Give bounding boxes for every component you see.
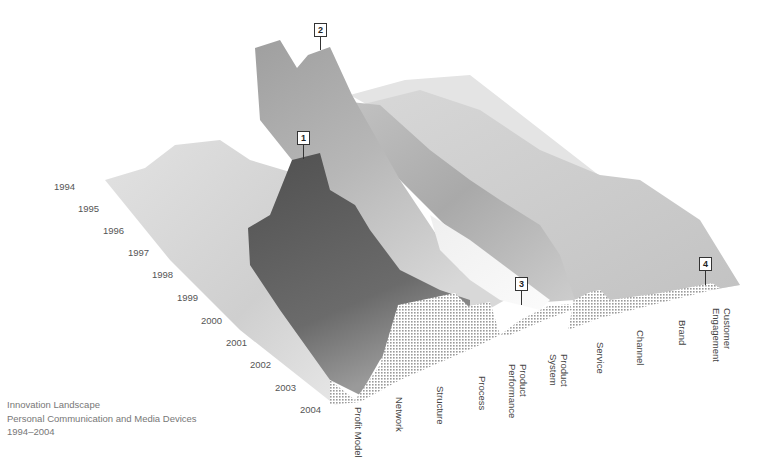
year-label-2003: 2003 <box>275 382 296 393</box>
category-label-customer-engagement: CustomerEngagement <box>711 308 733 362</box>
category-label-profit-model: Profit Model <box>353 407 364 458</box>
year-label-2004: 2004 <box>300 404 321 415</box>
year-label-1995: 1995 <box>78 203 99 214</box>
category-label-service: Service <box>595 342 606 374</box>
year-label-1998: 1998 <box>152 269 173 280</box>
callout-marker-2: 2 <box>314 23 327 37</box>
category-label-structure: Structure <box>435 386 446 425</box>
category-label-channel: Channel <box>635 330 646 365</box>
category-label-product-performance: ProductPerformance <box>507 364 529 418</box>
caption-title: Innovation Landscape <box>7 398 197 412</box>
year-label-2002: 2002 <box>250 359 271 370</box>
callout-line-4 <box>705 271 706 285</box>
caption-range: 1994–2004 <box>7 425 197 439</box>
callout-line-2 <box>320 37 321 50</box>
year-label-2000: 2000 <box>201 315 222 326</box>
caption-subtitle: Personal Communication and Media Devices <box>7 412 197 426</box>
callout-line-1 <box>303 145 304 159</box>
year-label-1996: 1996 <box>103 225 124 236</box>
category-label-brand: Brand <box>677 320 688 345</box>
category-label-network: Network <box>394 397 405 432</box>
category-label-product-system: ProductSystem <box>548 354 570 387</box>
year-label-1994: 1994 <box>54 181 75 192</box>
chart-caption: Innovation Landscape Personal Communicat… <box>7 398 197 439</box>
year-label-2001: 2001 <box>226 337 247 348</box>
callout-marker-4: 4 <box>699 257 712 271</box>
callout-marker-1: 1 <box>297 131 310 145</box>
year-label-1999: 1999 <box>177 292 198 303</box>
year-label-1997: 1997 <box>128 247 149 258</box>
callout-marker-3: 3 <box>515 277 528 291</box>
callout-line-3 <box>521 291 522 305</box>
category-label-process: Process <box>477 376 488 410</box>
